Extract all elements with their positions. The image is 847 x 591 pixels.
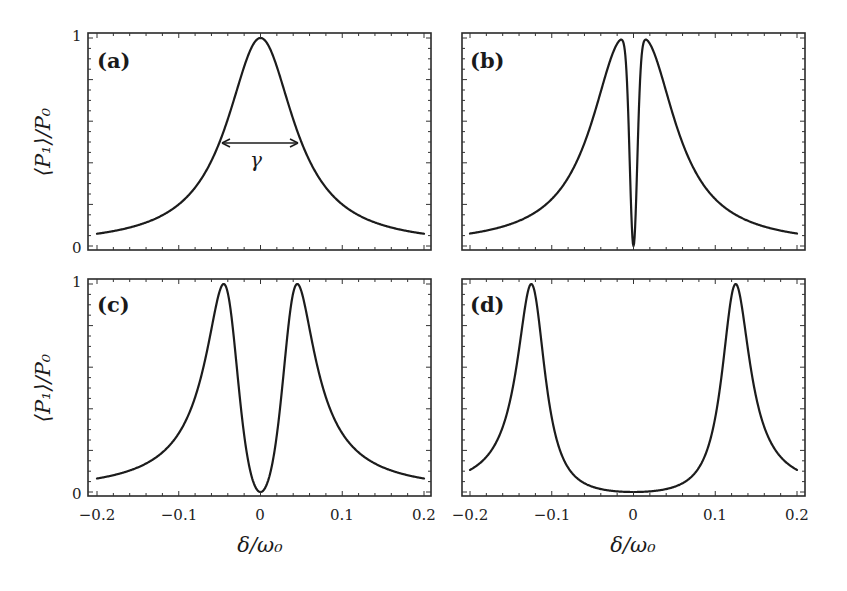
xtick: 0 xyxy=(628,506,638,524)
ytick-0-top: 0 xyxy=(72,239,82,257)
panel-d-curve xyxy=(470,284,797,492)
xtick: 0.2 xyxy=(412,506,436,524)
panel-b-label: (b) xyxy=(470,48,505,73)
panel-b-curve xyxy=(470,40,797,246)
panel-a: (a) γ xyxy=(88,33,431,250)
panel-c-frame xyxy=(88,279,431,496)
xtick: 0.1 xyxy=(703,506,727,524)
ytick-1-top: 1 xyxy=(72,27,82,45)
gamma-arrow xyxy=(222,139,298,147)
panel-d: (d) xyxy=(462,279,805,496)
panel-c-label: (c) xyxy=(97,292,130,317)
ytick-1-bottom: 1 xyxy=(72,273,82,291)
panel-b: (b) xyxy=(462,33,805,250)
panel-b-frame xyxy=(462,33,805,250)
xtick: −0.2 xyxy=(452,506,488,524)
panel-c: (c) xyxy=(88,279,431,496)
ytick-0-bottom: 0 xyxy=(72,485,82,503)
xtick: 0.1 xyxy=(330,506,354,524)
xticks-right: −0.2 −0.1 0 0.1 0.2 xyxy=(452,506,809,524)
xtick: −0.1 xyxy=(161,506,197,524)
xtick: −0.1 xyxy=(534,506,570,524)
figure: (a) γ (b) (c) (d) 1 0 1 0 −0.2 −0.1 0 0.… xyxy=(0,0,847,591)
panel-c-curve xyxy=(97,284,424,492)
x-axis-label-left: δ/ω₀ xyxy=(237,533,283,557)
y-axis-label-bottom: ⟨P₁⟩/P₀ xyxy=(31,353,55,422)
panel-a-frame xyxy=(88,33,431,250)
xtick: 0.2 xyxy=(785,506,809,524)
panel-a-label: (a) xyxy=(97,48,130,73)
gamma-label: γ xyxy=(250,148,262,172)
x-axis-label-right: δ/ω₀ xyxy=(610,533,656,557)
xtick: −0.2 xyxy=(79,506,115,524)
panel-d-label: (d) xyxy=(470,292,505,317)
xticks-left: −0.2 −0.1 0 0.1 0.2 xyxy=(79,506,436,524)
panel-a-curve xyxy=(97,38,424,234)
y-axis-label-top: ⟨P₁⟩/P₀ xyxy=(31,107,55,176)
tick-marks xyxy=(88,33,805,496)
xtick: 0 xyxy=(255,506,265,524)
